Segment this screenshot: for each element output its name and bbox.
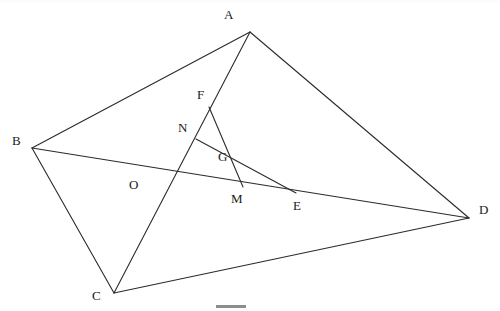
segment-ab xyxy=(32,32,250,148)
segment-ad xyxy=(250,32,469,218)
point-label-b: B xyxy=(12,134,21,147)
point-label-n: N xyxy=(178,121,187,134)
point-label-o: O xyxy=(129,178,138,191)
point-label-m: M xyxy=(231,192,243,205)
point-label-d: D xyxy=(479,203,488,216)
segment-ne xyxy=(196,139,296,193)
geometry-figure: ABCDFNGMEO xyxy=(0,0,500,311)
segment-cd xyxy=(114,218,469,293)
geometry-canvas xyxy=(0,0,500,311)
bottom-rule-mark xyxy=(216,305,246,308)
point-label-e: E xyxy=(293,199,301,212)
point-label-a: A xyxy=(224,8,233,21)
segment-layer xyxy=(32,32,469,293)
segment-bc xyxy=(32,148,114,293)
point-label-c: C xyxy=(92,289,101,302)
point-label-f: F xyxy=(197,88,204,101)
diagonal-bd xyxy=(32,148,469,218)
segment-fm xyxy=(209,107,243,187)
point-label-g: G xyxy=(218,150,227,163)
diagonal-ac xyxy=(114,32,250,293)
